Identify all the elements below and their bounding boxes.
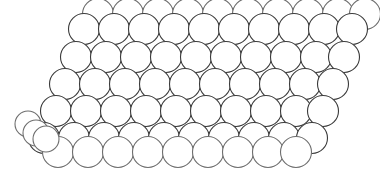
sphere-back-row-bottom-6 <box>223 137 254 168</box>
sphere-row-2-0 <box>61 42 92 73</box>
sphere-row-4-5 <box>191 96 222 127</box>
sphere-back-row-bottom-5 <box>193 137 224 168</box>
sphere-row-3-6 <box>230 69 261 100</box>
sphere-row-4-3 <box>131 96 162 127</box>
sphere-row-3-3 <box>140 69 171 100</box>
sphere-row-4-7 <box>251 96 282 127</box>
sphere-row-3-4 <box>170 69 201 100</box>
sphere-row-1-2 <box>129 14 160 45</box>
sphere-row-3-9 <box>318 69 349 100</box>
sphere-row-1-3 <box>159 14 190 45</box>
sphere-back-row-bottom-4 <box>163 137 194 168</box>
sphere-row-4-9 <box>308 96 339 127</box>
sphere-row-2-2 <box>121 42 152 73</box>
sphere-row-2-6 <box>241 42 272 73</box>
sphere-row-1-6 <box>249 14 280 45</box>
sphere-row-1-1 <box>99 14 130 45</box>
sphere-corner-spheres-2 <box>33 126 59 152</box>
sphere-row-3-0 <box>50 69 81 100</box>
sphere-row-3-1 <box>80 69 111 100</box>
sphere-row-4-8 <box>281 96 312 127</box>
sphere-row-2-3 <box>151 42 182 73</box>
sphere-back-row-bottom-2 <box>103 137 134 168</box>
sphere-row-1-7 <box>279 14 310 45</box>
sphere-row-3-5 <box>200 69 231 100</box>
figure-root: Stacked arrangement of identical outline… <box>0 0 380 169</box>
sphere-row-1-9 <box>337 14 368 45</box>
sphere-row-3-7 <box>260 69 291 100</box>
sphere-row-2-5 <box>211 42 242 73</box>
sphere-layers-group <box>15 0 380 168</box>
sphere-row-4-4 <box>161 96 192 127</box>
sphere-back-row-bottom-3 <box>133 137 164 168</box>
sphere-row-3-2 <box>110 69 141 100</box>
sphere-row-4-2 <box>101 96 132 127</box>
sphere-back-row-bottom-8 <box>281 137 312 168</box>
sphere-row-4-6 <box>221 96 252 127</box>
sphere-row-4-1 <box>71 96 102 127</box>
sphere-back-row-bottom-7 <box>253 137 284 168</box>
sphere-row-2-4 <box>181 42 212 73</box>
sphere-back-row-bottom-1 <box>73 137 104 168</box>
sphere-row-2-1 <box>91 42 122 73</box>
sphere-row-1-4 <box>189 14 220 45</box>
sphere-row-2-8 <box>301 42 332 73</box>
sphere-row-1-5 <box>219 14 250 45</box>
sphere-row-3-8 <box>290 69 321 100</box>
sphere-row-1-8 <box>309 14 340 45</box>
sphere-lattice-diagram <box>0 0 380 169</box>
sphere-row-4-0 <box>41 96 72 127</box>
sphere-row-1-0 <box>69 14 100 45</box>
sphere-row-2-9 <box>329 42 360 73</box>
sphere-row-2-7 <box>271 42 302 73</box>
sphere-layer-back-row-bottom <box>43 137 312 168</box>
